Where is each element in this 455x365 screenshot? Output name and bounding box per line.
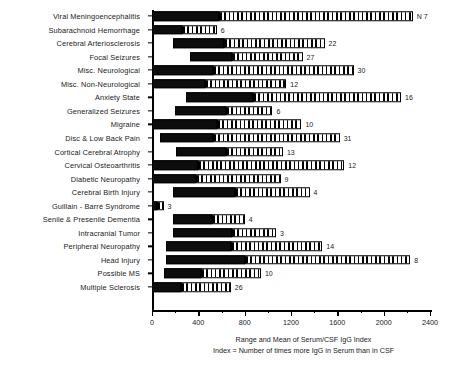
bar-n-label: 12 bbox=[348, 162, 356, 169]
bar-range-segment bbox=[213, 133, 339, 143]
bar-n-label: 12 bbox=[290, 80, 298, 87]
x-axis-tick-label: 1200 bbox=[283, 318, 299, 327]
bar-range-segment bbox=[245, 255, 411, 265]
x-axis-minor-tick bbox=[222, 310, 223, 313]
category-label: Possible MS bbox=[98, 269, 140, 278]
range-bar bbox=[173, 228, 276, 238]
range-bar bbox=[152, 201, 164, 211]
range-bar bbox=[160, 133, 340, 143]
y-axis-tick bbox=[148, 232, 153, 233]
y-axis-tick bbox=[148, 42, 153, 43]
chart-container: Viral MeningoencephalitisSubarachnoid He… bbox=[0, 0, 455, 365]
bar-n-label: N 7 bbox=[417, 13, 428, 20]
range-bar bbox=[173, 187, 310, 197]
y-axis-tick bbox=[148, 97, 153, 98]
category-label: Generalized Seizures bbox=[67, 106, 140, 115]
bar-mean-segment bbox=[173, 215, 212, 225]
x-axis-sublabel: Index = Number of times more IgG in Seru… bbox=[152, 346, 455, 357]
bar-range-segment bbox=[205, 79, 286, 89]
bar-mean-segment bbox=[166, 242, 231, 252]
bar-mean-segment bbox=[160, 133, 213, 143]
x-axis-minor-tick bbox=[314, 310, 315, 313]
category-label: Misc. Neurological bbox=[77, 66, 140, 75]
bar-n-label: 6 bbox=[221, 26, 225, 33]
x-axis-major-tick bbox=[430, 310, 431, 316]
y-axis-tick bbox=[148, 191, 153, 192]
x-axis-major-tick bbox=[291, 310, 292, 316]
bar-mean-segment bbox=[173, 187, 236, 197]
bar-mean-segment bbox=[152, 65, 213, 75]
bar-mean-segment bbox=[152, 11, 219, 21]
x-axis-tick-label: 2400 bbox=[422, 318, 438, 327]
x-axis-minor-tick bbox=[361, 310, 362, 313]
y-axis-tick bbox=[148, 110, 153, 111]
y-axis-tick bbox=[148, 219, 153, 220]
bar-range-segment bbox=[198, 160, 344, 170]
bar-n-label: 6 bbox=[276, 107, 280, 114]
x-axis-major-tick bbox=[384, 310, 385, 316]
bar-range-segment bbox=[196, 174, 281, 184]
bar-n-label: 10 bbox=[305, 121, 313, 128]
x-axis-tick-label: 0 bbox=[150, 318, 154, 327]
bar-n-label: 4 bbox=[314, 189, 318, 196]
bar-range-segment bbox=[253, 93, 401, 103]
x-axis-minor-tick bbox=[268, 310, 269, 313]
bar-mean-segment bbox=[175, 106, 226, 116]
y-axis-tick bbox=[148, 56, 153, 57]
range-bar bbox=[152, 79, 286, 89]
bar-range-segment bbox=[226, 106, 272, 116]
bar-range-segment bbox=[235, 187, 309, 197]
bar-range-segment bbox=[217, 120, 302, 130]
category-label: Intracranial Tumor bbox=[78, 228, 140, 237]
category-label: Cortical Cerebral Atrophy bbox=[54, 147, 140, 156]
bar-range-segment bbox=[181, 282, 231, 292]
x-axis-tick-label: 400 bbox=[192, 318, 204, 327]
range-bar bbox=[166, 242, 322, 252]
category-label: Senile & Presenile Dementia bbox=[43, 215, 140, 224]
range-bar bbox=[152, 282, 231, 292]
bar-mean-segment bbox=[176, 147, 226, 157]
bar-mean-segment bbox=[186, 93, 253, 103]
bar-range-segment bbox=[226, 147, 283, 157]
category-label: Head Injury bbox=[101, 255, 140, 264]
bar-mean-segment bbox=[152, 25, 182, 35]
x-axis-tick-label: 800 bbox=[239, 318, 251, 327]
y-axis-tick bbox=[148, 273, 153, 274]
category-label: Anxiety State bbox=[95, 93, 140, 102]
bar-range-segment bbox=[157, 201, 164, 211]
bar-mean-segment bbox=[173, 38, 224, 48]
range-bar bbox=[152, 25, 217, 35]
category-label: Cervical Osteoarthritis bbox=[65, 161, 140, 170]
bar-mean-segment bbox=[164, 269, 201, 279]
bar-n-label: 3 bbox=[280, 229, 284, 236]
bar-n-label: 14 bbox=[326, 243, 334, 250]
range-bar bbox=[173, 38, 325, 48]
bar-n-label: 30 bbox=[358, 67, 366, 74]
range-bar bbox=[152, 120, 301, 130]
x-axis-tick-label: 2000 bbox=[376, 318, 392, 327]
bar-range-segment bbox=[219, 11, 412, 21]
bar-range-segment bbox=[212, 215, 244, 225]
bar-n-label: 13 bbox=[287, 148, 295, 155]
bar-range-segment bbox=[224, 38, 325, 48]
bar-range-segment bbox=[201, 269, 261, 279]
category-label: Viral Meningoencephalitis bbox=[53, 12, 140, 21]
bar-mean-segment bbox=[152, 120, 217, 130]
range-bar bbox=[173, 215, 245, 225]
bar-mean-segment bbox=[152, 160, 198, 170]
x-axis-minor-tick bbox=[407, 310, 408, 313]
category-label: Focal Seizures bbox=[89, 52, 140, 61]
bar-n-label: 3 bbox=[168, 202, 172, 209]
range-bar bbox=[152, 174, 281, 184]
x-axis-tick-label: 1600 bbox=[329, 318, 345, 327]
bar-n-label: 22 bbox=[329, 40, 337, 47]
category-label: Disc & Low Back Pain bbox=[65, 133, 140, 142]
bar-mean-segment bbox=[152, 174, 196, 184]
bar-mean-segment bbox=[190, 52, 232, 62]
range-bar bbox=[152, 11, 413, 21]
category-label: Misc. Non-Neurological bbox=[61, 79, 140, 88]
plot-area: Range and Mean of Serum/CSF IgG Index In… bbox=[152, 0, 455, 365]
x-axis-major-tick bbox=[198, 310, 199, 316]
x-axis-label: Range and Mean of Serum/CSF IgG Index bbox=[152, 335, 455, 346]
bar-range-segment bbox=[182, 25, 217, 35]
